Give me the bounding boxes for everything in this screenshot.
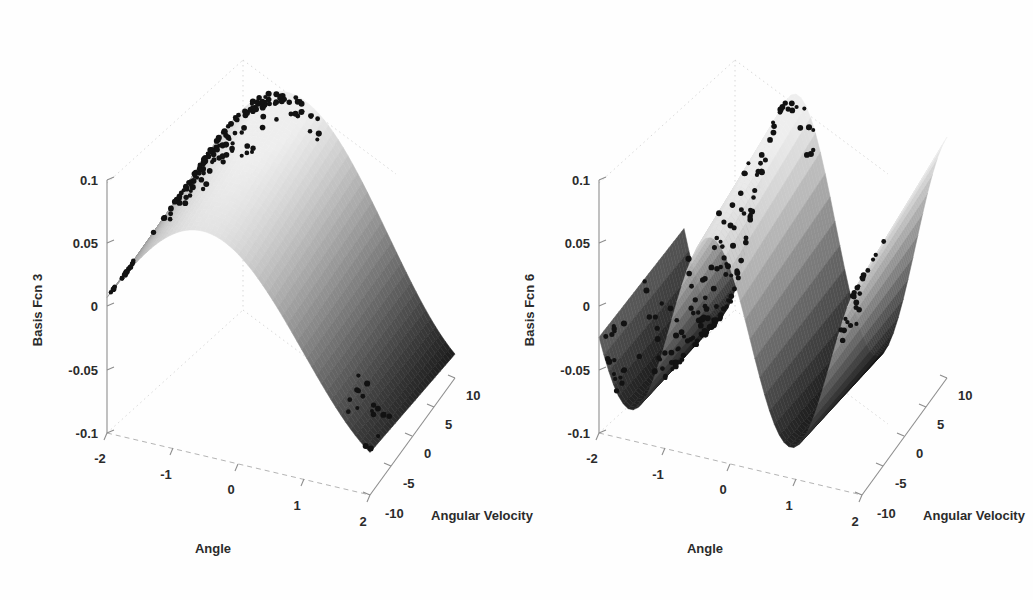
z-tick-label: -0.1 [76,426,98,441]
surface-mesh-left [107,91,455,452]
plot-svg-right: 0.1 0.05 0 -0.05 -0.1 Basis Fcn 6 -2 -1 … [492,0,1033,600]
x-axis-title-right: Angle [687,541,723,556]
surface-plot-panel-left: 0.1 0.05 0 -0.05 -0.1 Basis Fcn 3 -2 -1 … [0,0,500,600]
z-tick-label: 0.1 [572,173,590,188]
z-tick-label: 0.05 [73,236,98,251]
x-tick-label: 1 [293,498,300,513]
x-tick-label: -2 [94,451,106,466]
z-ticks-left [107,177,114,433]
y-tick-label: 5 [937,417,944,432]
x-ticks-right [596,433,862,502]
y-tick-label: -5 [403,476,415,491]
y-tick-label: 0 [916,446,923,461]
x-tick-label: 2 [359,514,366,529]
x-axis-line-left [107,433,370,495]
figure-canvas: 0.1 0.05 0 -0.05 -0.1 Basis Fcn 3 -2 -1 … [0,0,1033,600]
x-tick-label: 0 [719,482,726,497]
y-tick-label: -5 [895,476,907,491]
surface-mesh-right [599,94,947,447]
y-tick-label: 0 [424,446,431,461]
y-tick-label: 10 [466,388,480,403]
y-tick-label: -10 [877,506,896,521]
z-tick-label: -0.1 [568,426,590,441]
z-axis-title-left: Basis Fcn 3 [30,274,45,346]
y-tick-label: -10 [385,506,404,521]
x-tick-label: 1 [785,498,792,513]
z-tick-label: -0.05 [68,363,98,378]
x-axis-title-left: Angle [195,541,231,556]
z-ticks-right [599,177,606,433]
x-tick-label: -1 [160,467,172,482]
y-axis-title-right: Angular Velocity [923,508,1026,523]
floor-back-left-edge-left [107,310,243,433]
z-tick-label: 0.1 [80,173,98,188]
z-tick-label: 0 [583,299,590,314]
z-tick-label: 0 [91,299,98,314]
box-top-left-edge-right [599,60,735,183]
x-axis-line-right [599,433,862,495]
surface-plot-panel-right: 0.1 0.05 0 -0.05 -0.1 Basis Fcn 6 -2 -1 … [492,0,1033,600]
x-tick-label: 2 [851,514,858,529]
plot-svg-left: 0.1 0.05 0 -0.05 -0.1 Basis Fcn 3 -2 -1 … [0,0,500,600]
x-tick-label: -2 [586,451,598,466]
y-tick-label: 5 [445,417,452,432]
x-tick-label: 0 [227,482,234,497]
z-axis-title-right: Basis Fcn 6 [522,274,537,346]
x-ticks-left [104,433,370,502]
z-tick-label: -0.05 [560,363,590,378]
x-tick-label: -1 [652,467,664,482]
y-tick-label: 10 [958,388,972,403]
z-tick-label: 0.05 [565,236,590,251]
